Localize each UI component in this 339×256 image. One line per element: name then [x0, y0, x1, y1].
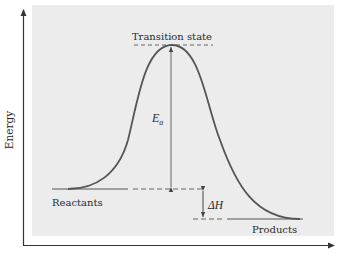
products-label: Products: [252, 224, 297, 235]
reactants-label: Reactants: [52, 197, 103, 208]
energy-diagram: Energy Transition state Ea ΔH Reactants …: [0, 0, 339, 256]
transition-state-label: Transition state: [132, 31, 212, 42]
y-axis-label: Energy: [3, 111, 15, 149]
enthalpy-change-label: ΔH: [207, 199, 224, 211]
activation-energy-subscript: a: [159, 118, 163, 127]
